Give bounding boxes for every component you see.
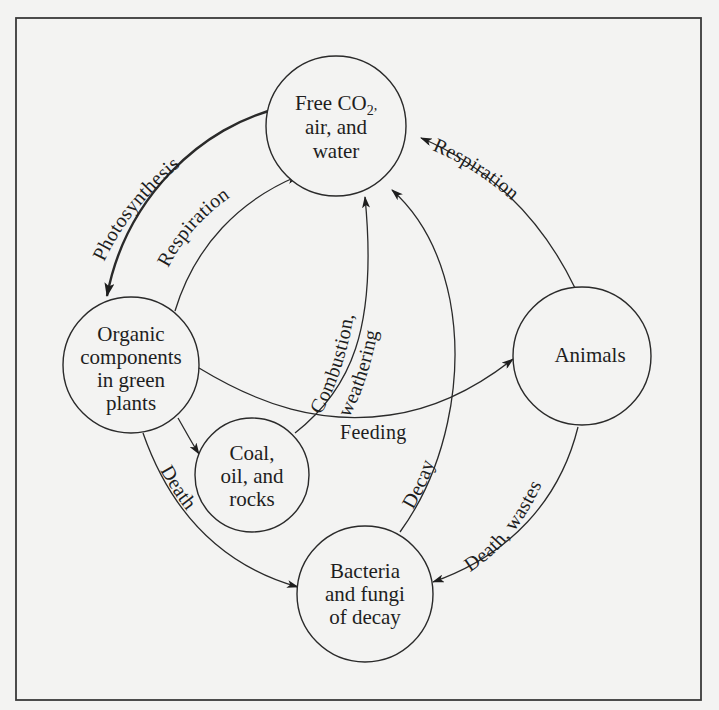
coal-line1: Coal, (230, 441, 275, 465)
node-animals: Animals (513, 287, 651, 425)
free-co2-line2: air, and (305, 115, 368, 139)
bacteria-line2: and fungi (325, 582, 405, 606)
carbon-cycle-diagram: Free CO2, air, and water Organic compone… (0, 0, 719, 710)
coal-line3: rocks (229, 487, 275, 511)
animals-label: Animals (554, 343, 625, 367)
death-wastes-label: Death, wastes (460, 477, 546, 576)
respiration-animals-arrow (421, 138, 575, 288)
coal-line2: oil, and (221, 464, 284, 488)
organic-line1: Organic (97, 322, 164, 346)
organic-line2: components (80, 345, 181, 369)
node-free-co2: Free CO2, air, and water (266, 56, 406, 196)
bacteria-line1: Bacteria (330, 559, 401, 583)
respiration-animals-label: Respiration (430, 133, 524, 203)
free-co2-line3: water (313, 139, 360, 163)
organic-line3: in green (97, 368, 166, 392)
node-organic-components: Organic components in green plants (63, 297, 199, 433)
organic-line4: plants (106, 391, 156, 415)
bacteria-line3: of decay (329, 605, 401, 629)
node-bacteria-fungi: Bacteria and fungi of decay (297, 526, 433, 662)
free-co2-line1: Free CO2, (295, 91, 377, 118)
death-wastes-arrow (433, 427, 578, 582)
fossilization-arrow (178, 418, 199, 454)
decay-label: Decay (397, 457, 439, 512)
node-coal-oil-rocks: Coal, oil, and rocks (195, 418, 309, 532)
feeding-label: Feeding (340, 421, 407, 444)
respiration-plants-arrow (175, 176, 298, 311)
respiration-plants-label: Respiration (152, 182, 233, 269)
